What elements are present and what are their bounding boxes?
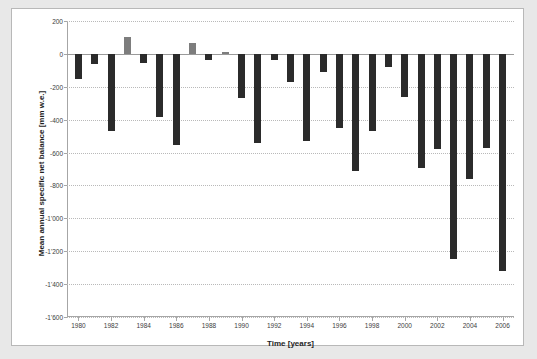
x-tick-label: 1982 (104, 322, 118, 329)
x-tick-mark (405, 317, 406, 321)
x-tick-label: 1994 (300, 322, 314, 329)
x-tick-label: 2002 (430, 322, 444, 329)
x-tick-label: 1996 (332, 322, 346, 329)
x-tick-mark (242, 317, 243, 321)
y-tick-label: -1'000 (45, 215, 63, 222)
bar (91, 54, 98, 64)
x-tick-label: 1992 (267, 322, 281, 329)
y-tick-mark (64, 284, 67, 285)
x-tick-mark (144, 317, 145, 321)
y-gridline (67, 251, 514, 252)
y-tick-label: -1'200 (45, 248, 63, 255)
y-gridline (67, 218, 514, 219)
y-tick-mark (64, 54, 67, 55)
x-tick-mark (176, 317, 177, 321)
x-tick-mark (437, 317, 438, 321)
y-tick-label: 0 (59, 50, 63, 57)
bar (401, 54, 408, 97)
bar (254, 54, 261, 144)
y-tick-mark (64, 87, 67, 88)
y-axis-line (67, 21, 68, 317)
y-tick-mark (64, 153, 67, 154)
x-tick-label: 1980 (71, 322, 85, 329)
y-axis-title: Mean annual specific net balance [mm w.e… (37, 59, 46, 289)
x-tick-label: 1988 (202, 322, 216, 329)
y-tick-label: 200 (52, 18, 63, 25)
bar (108, 54, 115, 131)
bar (140, 54, 147, 63)
y-gridline (67, 284, 514, 285)
bar-chart: 2000-200-400-600-800-1'000-1'200-1'400-1… (12, 9, 525, 347)
x-tick-label: 1990 (234, 322, 248, 329)
x-tick-mark (78, 317, 79, 321)
x-tick-mark (503, 317, 504, 321)
bar (450, 54, 457, 260)
bar (336, 54, 343, 128)
y-gridline (67, 21, 514, 22)
y-tick-label: -1'600 (45, 314, 63, 321)
x-axis-title: Time [years] (67, 339, 514, 348)
bar (173, 54, 180, 145)
bar (205, 54, 212, 60)
y-tick-label: -200 (50, 83, 63, 90)
y-tick-mark (64, 21, 67, 22)
x-tick-mark (209, 317, 210, 321)
x-tick-label: 1984 (136, 322, 150, 329)
x-tick-mark (111, 317, 112, 321)
y-gridline (67, 317, 514, 318)
plot-area: 2000-200-400-600-800-1'000-1'200-1'400-1… (67, 21, 514, 317)
bar (303, 54, 310, 141)
x-tick-mark (339, 317, 340, 321)
bar (222, 52, 229, 54)
y-tick-label: -600 (50, 149, 63, 156)
bar (499, 54, 506, 271)
bar (189, 43, 196, 54)
y-tick-label: -800 (50, 182, 63, 189)
x-tick-mark (470, 317, 471, 321)
y-tick-mark (64, 251, 67, 252)
bar (369, 54, 376, 131)
bar (75, 54, 82, 79)
x-tick-label: 2000 (397, 322, 411, 329)
bar (287, 54, 294, 82)
y-tick-mark (64, 120, 67, 121)
bar (156, 54, 163, 117)
x-tick-label: 2004 (463, 322, 477, 329)
bar (352, 54, 359, 172)
x-tick-mark (372, 317, 373, 321)
y-gridline (67, 185, 514, 186)
y-gridline (67, 153, 514, 154)
y-tick-mark (64, 218, 67, 219)
figure-frame: 2000-200-400-600-800-1'000-1'200-1'400-1… (11, 8, 524, 346)
bar (124, 37, 131, 54)
y-tick-label: -1'400 (45, 281, 63, 288)
bar (466, 54, 473, 179)
y-gridline (67, 87, 514, 88)
x-tick-mark (307, 317, 308, 321)
bar (385, 54, 392, 67)
x-tick-label: 2006 (495, 322, 509, 329)
y-gridline (67, 120, 514, 121)
x-tick-label: 1998 (365, 322, 379, 329)
y-tick-mark (64, 185, 67, 186)
bar (271, 54, 278, 60)
x-tick-label: 1986 (169, 322, 183, 329)
bar (434, 54, 441, 149)
y-tick-label: -400 (50, 116, 63, 123)
bar (418, 54, 425, 168)
bar (483, 54, 490, 149)
y-tick-mark (64, 317, 67, 318)
x-tick-mark (274, 317, 275, 321)
bar (238, 54, 245, 98)
bar (320, 54, 327, 72)
